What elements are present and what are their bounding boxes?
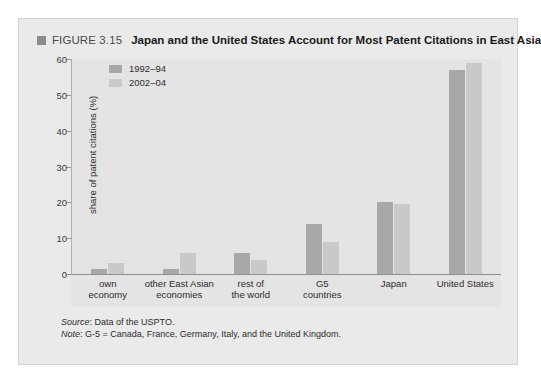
page-title: Japan and the United States Account for … (131, 34, 541, 46)
y-tick-label: 10 (56, 233, 67, 244)
source-label: Source (61, 317, 90, 327)
x-axis-label-line: United States (424, 278, 508, 289)
note-text: : G-5 = Canada, France, Germany, Italy, … (80, 329, 341, 339)
bar (466, 63, 482, 274)
y-tick-label: 50 (56, 89, 67, 100)
bar (323, 242, 339, 274)
y-tick-label: 20 (56, 197, 67, 208)
chart-bars (72, 59, 501, 274)
source-text: : Data of the USPTO. (90, 317, 175, 327)
x-axis-line (71, 274, 501, 275)
bar (163, 269, 179, 274)
figure-title-row: FIGURE 3.15 Japan and the United States … (37, 32, 507, 48)
bar (234, 253, 250, 275)
bar (251, 260, 267, 274)
bar (449, 70, 465, 274)
bar (377, 202, 393, 274)
bar (91, 269, 107, 274)
source-line: Source: Data of the USPTO. (61, 316, 341, 328)
bar (180, 253, 196, 275)
y-tick-label: 60 (56, 54, 67, 65)
x-axis-labels: owneconomyother East Asianeconomiesrest … (72, 278, 501, 306)
x-axis-category-label: United States (424, 278, 508, 289)
chart-plot-area: share of patent citations (%) 0102030405… (71, 59, 501, 307)
y-tick-label: 40 (56, 125, 67, 136)
x-axis-label-line: countries (281, 289, 365, 300)
figure-frame: FIGURE 3.15 Japan and the United States … (18, 18, 518, 365)
y-tick-label: 30 (56, 161, 67, 172)
bar (108, 263, 124, 274)
note-line: Note: G-5 = Canada, France, Germany, Ita… (61, 328, 341, 340)
square-marker-icon (37, 36, 46, 45)
figure-footnotes: Source: Data of the USPTO. Note: G-5 = C… (61, 316, 341, 340)
figure-number: FIGURE 3.15 (52, 34, 122, 46)
note-label: Note (61, 329, 80, 339)
bar (306, 224, 322, 274)
bar (394, 204, 410, 274)
